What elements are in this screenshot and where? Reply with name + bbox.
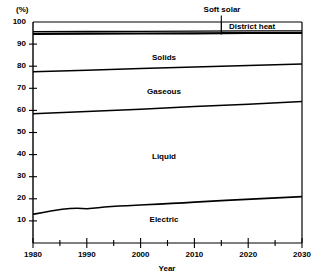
x-tick-label-2020: 2020: [233, 251, 263, 259]
x-axis-title: Year: [147, 265, 187, 273]
band-label-liquid: Liquid: [145, 153, 183, 161]
band-label-electric: Electric: [143, 216, 185, 224]
y-tick-label-60: 60: [4, 106, 26, 114]
y-tick-label-20: 20: [4, 194, 26, 202]
y-tick-label-90: 90: [4, 40, 26, 48]
band-label-gaseous: Gaseous: [141, 88, 187, 96]
callout-label-soft-solar: Soft solar: [196, 6, 248, 14]
x-tick-label-2030: 2030: [287, 251, 317, 259]
chart-canvas: [0, 0, 322, 280]
boundary-electric-top: [33, 197, 302, 215]
x-tick-label-1980: 1980: [18, 251, 48, 259]
boundary-liquid-top: [33, 102, 302, 114]
stacked-area-chart: (%) 100 90 80 70 60 50 40 30 20 10 1980 …: [0, 0, 322, 280]
y-tick-label-70: 70: [4, 84, 26, 92]
x-tick-label-2000: 2000: [126, 251, 156, 259]
y-tick-label-40: 40: [4, 150, 26, 158]
x-tick-label-1990: 1990: [72, 251, 102, 259]
y-tick-label-10: 10: [4, 216, 26, 224]
callout-label-district-heat: District heat: [229, 23, 291, 31]
y-axis-unit-label: (%): [16, 6, 28, 14]
y-tick-label-100: 100: [4, 18, 26, 26]
x-tick-label-2010: 2010: [179, 251, 209, 259]
y-tick-label-80: 80: [4, 62, 26, 70]
y-tick-label-50: 50: [4, 128, 26, 136]
y-tick-label-30: 30: [4, 172, 26, 180]
band-label-solids: Solids: [144, 54, 184, 62]
boundary-gaseous-top: [33, 64, 302, 72]
